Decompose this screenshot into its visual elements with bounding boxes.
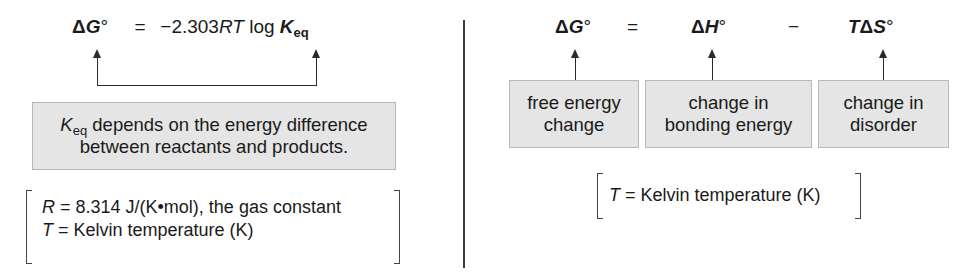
connector-line <box>97 85 317 86</box>
equals-sign: = <box>627 16 638 38</box>
explanation-line-1: Keq depends on the energy difference <box>60 114 367 136</box>
explanation-line-2: between reactants and products. <box>80 136 348 158</box>
keq-explanation-box: Keq depends on the energy difference bet… <box>32 102 396 170</box>
left-bracket <box>26 190 32 264</box>
right-bracket <box>855 173 861 219</box>
delta-symbol: Δ <box>72 16 86 37</box>
right-bracket <box>394 190 400 264</box>
free-energy-change-box: free energy change <box>509 80 639 148</box>
rt-symbol: RT <box>219 16 244 37</box>
degree-symbol: ° <box>100 16 108 37</box>
definition-t: T = Kelvin temperature (K) <box>609 184 821 207</box>
gibbs-symbol: G <box>86 16 101 37</box>
equals-sign: = <box>135 16 146 37</box>
left-bracket <box>597 173 603 219</box>
coefficient: −2.303 <box>160 16 219 37</box>
term-delta-g: ΔG° <box>555 16 591 38</box>
term-t-delta-s: TΔS° <box>848 16 894 38</box>
bonding-energy-change-box: change in bonding energy <box>645 80 812 148</box>
gibbs-equilibrium-equation: ΔG° = −2.303RT log Keq <box>72 16 309 38</box>
definition-r: R = 8.314 J/(K•mol), the gas constant <box>42 196 341 219</box>
log-function: log <box>249 16 274 37</box>
k-symbol: K <box>280 16 294 37</box>
k-subscript: eq <box>294 25 309 40</box>
definition-t: T = Kelvin temperature (K) <box>42 219 341 242</box>
term-delta-h: ΔH° <box>691 16 726 38</box>
disorder-change-box: change in disorder <box>818 80 949 148</box>
panel-divider <box>463 20 465 268</box>
minus-sign: − <box>788 16 799 38</box>
definitions-list: R = 8.314 J/(K•mol), the gas constant T … <box>42 196 341 242</box>
